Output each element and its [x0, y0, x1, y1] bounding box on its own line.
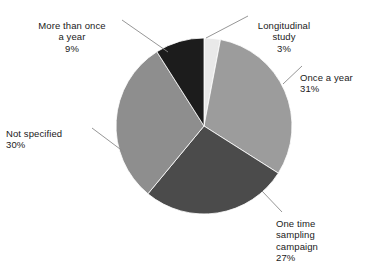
slice-label-percent: 30% — [6, 139, 98, 151]
slice-label-percent: 27% — [276, 252, 360, 264]
slice-label-text: Not specified — [6, 128, 62, 139]
slice-label-text: Once a year — [300, 72, 353, 83]
slice-label-once-a-year: Once a year 31% — [300, 60, 380, 106]
slice-label-more-than-once-a-year: More than once a year 9% — [18, 8, 126, 66]
leader-line — [122, 20, 168, 52]
slice-label-text: More than once a year — [38, 20, 105, 43]
slice-label-text: Longitudinal study — [258, 20, 310, 43]
slice-label-text: One time sampling campaign — [276, 218, 318, 252]
slice-label-percent: 3% — [238, 43, 330, 55]
slice-label-percent: 31% — [300, 83, 380, 95]
slice-label-not-specified: Not specified 30% — [6, 116, 98, 162]
slice-label-percent: 9% — [18, 43, 126, 55]
pie-chart: More than once a year 9% Longitudinal st… — [0, 0, 382, 270]
slice-label-one-time-sampling-campaign: One time sampling campaign 27% — [276, 206, 360, 270]
slice-label-longitudinal-study: Longitudinal study 3% — [238, 8, 330, 66]
